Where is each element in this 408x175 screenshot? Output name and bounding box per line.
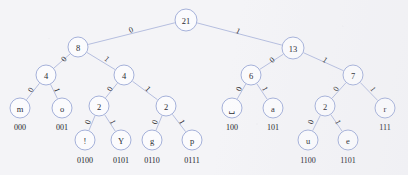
internal-node-n4a: 4	[36, 65, 56, 85]
internal-node-root: 21	[175, 9, 197, 31]
edge-bit-label-n7-n2c: 0	[331, 85, 341, 93]
edge-bit-label-n6-lsp: 0	[234, 85, 244, 92]
codeword-label-100: 100	[226, 123, 238, 132]
leaf-symbol-label: Y	[118, 136, 124, 146]
node-weight-label: 21	[182, 16, 191, 26]
codeword-label-0100: 0100	[77, 156, 93, 165]
leaf-symbol-label: r	[384, 104, 387, 114]
node-weight-label: 6	[249, 71, 253, 81]
internal-node-n8: 8	[68, 37, 88, 57]
codes-layer: 000001100101111010001010110011111001101	[14, 123, 391, 165]
internal-node-n13: 13	[282, 37, 304, 59]
leaf-node-lp: p	[182, 130, 202, 150]
codeword-label-101: 101	[267, 123, 279, 132]
leaf-node-lm: m	[10, 98, 30, 118]
edge-bit-label-n2b-lp: 1	[177, 118, 187, 126]
edge-bit-label-n2b-lg: 0	[150, 119, 160, 125]
edge-bit-label-n8-n4b: 1	[103, 54, 112, 63]
codeword-label-000: 000	[14, 123, 26, 132]
edge-bit-label-root-n8: 0	[127, 25, 134, 35]
edge-bit-label-n4b-n2a: 0	[105, 85, 115, 93]
leaf-node-lo: o	[52, 98, 72, 118]
codeword-label-1101: 1101	[340, 156, 356, 165]
leaf-symbol-label: m	[17, 104, 24, 114]
codeword-label-1100: 1100	[300, 156, 316, 165]
tree-svg: 218134467mo22␣a2r!Ygpue 0101010101010101…	[0, 0, 408, 175]
leaf-node-lsp: ␣	[222, 98, 242, 118]
leaf-symbol-label: e	[346, 136, 350, 146]
edge-bit-label-n7-lr: 1	[368, 85, 378, 94]
internal-node-n7: 7	[343, 65, 363, 85]
edge-bit-label-n6-la: 1	[260, 85, 270, 93]
leaf-symbol-label: !	[84, 136, 87, 146]
leaf-symbol-label: o	[60, 104, 64, 114]
internal-node-n6: 6	[241, 65, 261, 85]
edge-bit-label-n4a-lo: 1	[52, 87, 62, 94]
node-weight-label: 8	[76, 43, 80, 53]
edge-bit-label-n2a-lex: 0	[83, 119, 93, 125]
leaf-node-le: e	[338, 130, 358, 150]
internal-node-n2a: 2	[89, 96, 109, 116]
leaf-node-lu: u	[298, 130, 318, 150]
leaf-node-lr: r	[375, 98, 395, 118]
codeword-label-0110: 0110	[144, 156, 160, 165]
tree-edge-n8-n4b	[87, 52, 115, 69]
leaf-symbol-label: p	[190, 136, 194, 146]
edge-bit-label-n2a-lY: 1	[108, 118, 118, 126]
edge-bit-label-n4b-n2b: 1	[143, 84, 152, 93]
leaf-symbol-label: ␣	[229, 104, 236, 114]
codeword-label-111: 111	[379, 123, 390, 132]
codeword-label-0111: 0111	[184, 156, 199, 165]
leaf-node-lg: g	[142, 130, 162, 150]
internal-node-n2b: 2	[156, 96, 176, 116]
node-weight-label: 13	[289, 44, 298, 54]
codeword-label-0101: 0101	[113, 156, 129, 165]
internal-node-n2c: 2	[315, 96, 335, 116]
node-weight-label: 2	[323, 102, 327, 112]
node-weight-label: 2	[97, 102, 101, 112]
node-weight-label: 2	[164, 102, 168, 112]
leaf-node-lex: !	[75, 130, 95, 150]
leaf-node-la: a	[263, 98, 283, 118]
edge-bit-label-n2c-lu: 0	[306, 119, 316, 126]
node-weight-label: 7	[351, 71, 355, 81]
edge-bit-label-n4a-lm: 0	[26, 86, 36, 94]
huffman-tree-figure: 218134467mo22␣a2r!Ygpue 0101010101010101…	[0, 0, 408, 175]
codeword-label-001: 001	[56, 123, 68, 132]
leaf-symbol-label: a	[271, 104, 275, 114]
leaf-node-lY: Y	[111, 130, 131, 150]
internal-node-n4b: 4	[114, 65, 134, 85]
